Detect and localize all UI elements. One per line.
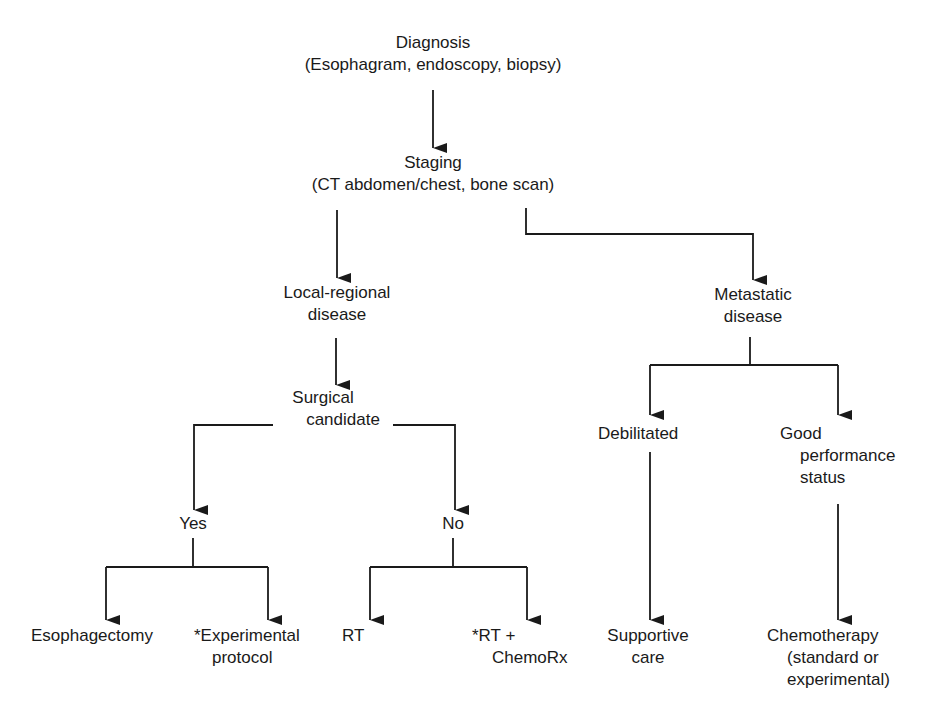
node-good-performance: Good performance status bbox=[780, 423, 895, 489]
node-chemo-line3: experimental) bbox=[787, 669, 890, 691]
node-debilitated-label: Debilitated bbox=[598, 423, 678, 445]
node-staging-title: Staging bbox=[312, 152, 555, 174]
node-chemo-line1: Chemotherapy bbox=[767, 625, 890, 647]
node-experimental-protocol: *Experimental protocol bbox=[194, 625, 300, 669]
node-no-label: No bbox=[442, 513, 464, 535]
node-staging-detail: (CT abdomen/chest, bone scan) bbox=[312, 174, 555, 196]
node-local-regional-line2: disease bbox=[284, 304, 391, 326]
node-metastatic: Metastatic disease bbox=[714, 284, 791, 328]
node-debilitated: Debilitated bbox=[598, 423, 678, 445]
node-local-regional-line1: Local-regional bbox=[284, 282, 391, 304]
node-rt-chemo-line2: ChemoRx bbox=[492, 647, 568, 669]
node-supportive-line2: care bbox=[607, 647, 688, 669]
node-surgical-line2: candidate bbox=[306, 409, 380, 431]
node-chemo-line2: (standard or bbox=[787, 647, 890, 669]
node-good-line1: Good bbox=[780, 423, 895, 445]
node-chemotherapy: Chemotherapy (standard or experimental) bbox=[767, 625, 890, 691]
node-rt-chemo-line1: *RT + bbox=[472, 625, 568, 647]
node-rt-label: RT bbox=[342, 625, 364, 647]
node-supportive-care: Supportive care bbox=[607, 625, 688, 669]
node-metastatic-line1: Metastatic bbox=[714, 284, 791, 306]
node-good-line2: performance bbox=[800, 445, 895, 467]
node-staging: Staging (CT abdomen/chest, bone scan) bbox=[312, 152, 555, 196]
connector-lines bbox=[0, 0, 950, 726]
node-local-regional: Local-regional disease bbox=[284, 282, 391, 326]
node-rt-chemo: *RT + ChemoRx bbox=[472, 625, 568, 669]
node-diagnosis-detail: (Esophagram, endoscopy, biopsy) bbox=[305, 54, 562, 76]
node-esophagectomy: Esophagectomy bbox=[31, 625, 153, 647]
node-yes-label: Yes bbox=[179, 513, 207, 535]
node-good-line3: status bbox=[800, 467, 895, 489]
node-supportive-line1: Supportive bbox=[607, 625, 688, 647]
node-experimental-line1: *Experimental bbox=[194, 625, 300, 647]
node-diagnosis-title: Diagnosis bbox=[305, 32, 562, 54]
node-no: No bbox=[442, 513, 464, 535]
node-experimental-line2: protocol bbox=[212, 647, 300, 669]
node-surgical-line1: Surgical bbox=[266, 387, 380, 409]
node-diagnosis: Diagnosis (Esophagram, endoscopy, biopsy… bbox=[305, 32, 562, 76]
node-yes: Yes bbox=[179, 513, 207, 535]
node-surgical-candidate: Surgical candidate bbox=[286, 387, 380, 431]
node-rt: RT bbox=[342, 625, 364, 647]
node-esophagectomy-label: Esophagectomy bbox=[31, 625, 153, 647]
node-metastatic-line2: disease bbox=[714, 306, 791, 328]
